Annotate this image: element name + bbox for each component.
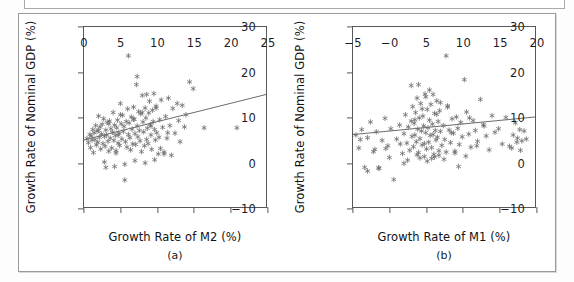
y-tick-b-1 (347, 72, 353, 73)
data-point (89, 145, 93, 150)
data-point (99, 147, 103, 152)
data-point (139, 149, 143, 154)
data-point (400, 151, 404, 156)
data-point (433, 128, 437, 133)
data-point (137, 128, 141, 133)
data-point (112, 138, 116, 143)
figure-frame: Growth Rate of Nominal GDP (%) 3020100−1… (18, 13, 556, 272)
data-point (484, 134, 488, 139)
data-points-b (354, 53, 528, 182)
data-point (522, 129, 526, 134)
data-point (158, 146, 162, 151)
data-point (97, 114, 101, 119)
data-point (144, 116, 148, 121)
data-point (416, 82, 420, 87)
y-tick-label-b-3: 0 (517, 157, 525, 171)
y-axis-label-a-text: Growth Rate of Nominal GDP (%) (24, 21, 38, 214)
data-point (430, 122, 434, 127)
data-point (425, 107, 429, 112)
data-point (424, 147, 428, 152)
data-point (475, 139, 479, 144)
data-point (398, 142, 402, 147)
x-tick-a-3 (194, 207, 195, 213)
data-point (188, 80, 192, 85)
x-tick-a-2 (157, 207, 158, 213)
data-point (427, 88, 431, 93)
data-point (150, 147, 154, 152)
data-point (457, 164, 461, 169)
data-point (166, 130, 170, 135)
y-tick-label-a-0: 30 (241, 20, 256, 34)
x-tick-a-1 (120, 207, 121, 213)
data-point (111, 110, 115, 115)
data-point (118, 101, 122, 106)
data-point (131, 105, 135, 110)
data-point (104, 165, 108, 170)
y-tick-b-2 (347, 117, 353, 118)
data-point (363, 165, 367, 170)
data-point (153, 157, 157, 162)
x-tick-label-a-5: 25 (260, 36, 275, 50)
data-point (166, 96, 170, 101)
data-point (427, 140, 431, 145)
data-point (384, 146, 388, 151)
data-point (409, 83, 413, 88)
data-point (431, 92, 435, 97)
data-point (417, 116, 421, 121)
data-point (478, 97, 482, 102)
data-point (107, 149, 111, 154)
data-point (163, 114, 167, 119)
data-point (182, 125, 186, 130)
data-point (115, 125, 119, 130)
data-point (113, 164, 117, 169)
x-tick-label-b-3: 10 (456, 36, 471, 50)
data-point (368, 120, 372, 125)
panel-b: Growth Rate of Nominal GDP (%) 3020100−1… (288, 14, 557, 273)
data-point (162, 152, 166, 157)
data-point (418, 156, 422, 161)
data-point (467, 132, 471, 137)
data-point (457, 142, 461, 147)
data-point (454, 115, 458, 120)
y-axis-label-b-text: Growth Rate of Nominal GDP (%) (293, 21, 307, 214)
data-point (159, 98, 163, 103)
data-point (460, 134, 464, 139)
data-point (464, 154, 468, 159)
data-point (354, 133, 358, 138)
data-point (149, 133, 153, 138)
data-point (103, 144, 107, 149)
data-point (449, 140, 453, 145)
data-point (145, 92, 149, 97)
data-point (405, 141, 409, 146)
data-point (421, 114, 425, 119)
plot-area-a: 3020100−100510152025 (83, 26, 267, 208)
data-point (469, 145, 473, 150)
data-point (450, 116, 454, 121)
y-tick-label-b-4: −10 (500, 202, 525, 216)
data-point (191, 86, 195, 91)
data-point (402, 131, 406, 136)
data-point (143, 106, 147, 111)
scatter-plot-b (353, 27, 535, 207)
x-tick-b-2 (426, 207, 427, 213)
data-point (473, 128, 477, 133)
x-tick-b-4 (500, 207, 501, 213)
data-point (102, 160, 106, 165)
data-point (168, 123, 172, 128)
data-point (462, 77, 466, 82)
data-point (392, 177, 396, 182)
y-tick-a-2 (78, 117, 84, 118)
data-point (416, 127, 420, 132)
data-point (465, 110, 469, 115)
x-axis-label-a: Growth Rate of M2 (%) (83, 230, 267, 244)
data-point (235, 125, 239, 130)
figure-page: Growth Rate of Nominal GDP (%) 3020100−1… (0, 0, 574, 282)
data-point (136, 134, 140, 139)
data-point (422, 154, 426, 159)
data-point (171, 106, 175, 111)
data-point (395, 137, 399, 142)
data-point (357, 146, 361, 151)
data-point (178, 139, 182, 144)
data-point (487, 147, 491, 152)
data-point (102, 116, 106, 121)
